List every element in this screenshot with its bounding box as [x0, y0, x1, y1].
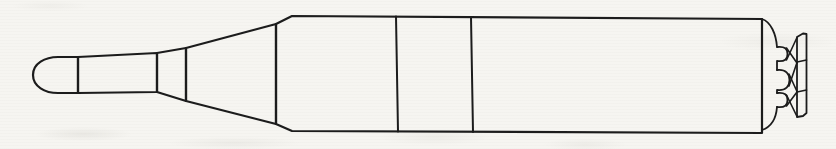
nose-dome [33, 57, 78, 93]
warhead-section [78, 53, 157, 93]
main-body [276, 16, 762, 133]
adapter-ring [157, 48, 186, 101]
exit-ring [797, 34, 807, 118]
exit-ring-divider-2 [797, 90, 807, 92]
interstage-cone [186, 24, 276, 124]
body-divider-2 [471, 17, 473, 132]
body-divider-1 [396, 17, 398, 132]
nozzle-throat-top [777, 47, 788, 70]
scanned-page [0, 0, 836, 149]
aft-fairing-bottom [762, 107, 777, 130]
exit-ring-divider-1 [797, 60, 807, 62]
missile-diagram [0, 0, 836, 149]
center-bump [777, 70, 790, 93]
aft-fairing-top [762, 19, 777, 47]
